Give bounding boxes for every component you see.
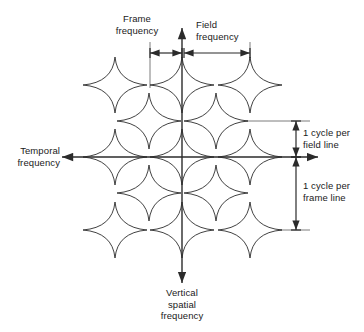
- spectrum-star: [83, 57, 147, 113]
- one-cycle-per-field-line-dimension: [291, 121, 301, 157]
- spectrum-star: [83, 202, 147, 258]
- spectrum-star: [184, 165, 248, 221]
- spectrum-star: [218, 202, 282, 258]
- one-cycle-per-frame-line-label: 1 cycle per frame line: [303, 180, 363, 203]
- vertical-spatial-frequency-label: Vertical spatial frequency: [147, 287, 217, 322]
- one-cycle-per-frame-line-dimension: [291, 157, 301, 230]
- dimension-lines-group: [150, 48, 301, 230]
- spectrum-star: [218, 57, 282, 113]
- field-frequency-label: Field frequency: [196, 19, 276, 42]
- field-frequency-dimension: [184, 48, 250, 58]
- spatiotemporal-frequency-diagram: Frame frequency Field frequency Temporal…: [0, 0, 364, 332]
- one-cycle-per-field-line-label: 1 cycle per field line: [303, 127, 363, 150]
- spectrum-star: [184, 93, 248, 149]
- leader-lines-group: [150, 42, 310, 230]
- spectrum-star: [117, 165, 181, 221]
- spectrum-star: [117, 93, 181, 149]
- temporal-frequency-label: Temporal frequency: [2, 145, 60, 168]
- frame-frequency-dimension: [150, 48, 182, 58]
- frame-frequency-label: Frame frequency: [100, 13, 174, 36]
